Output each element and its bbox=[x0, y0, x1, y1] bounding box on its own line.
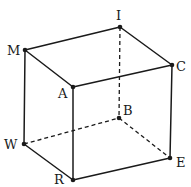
hidden-edge-IB bbox=[119, 27, 120, 118]
vertex-dot-A bbox=[71, 85, 76, 90]
edge-AM bbox=[25, 50, 73, 87]
edge-RE bbox=[73, 158, 170, 180]
edge-IC bbox=[120, 27, 172, 65]
vertex-dot-I bbox=[118, 25, 123, 30]
vertex-label-B: B bbox=[123, 103, 133, 118]
vertex-label-R: R bbox=[54, 172, 65, 187]
vertex-label-A: A bbox=[57, 86, 68, 101]
vertex-label-W: W bbox=[4, 137, 18, 152]
vertex-dot-M bbox=[23, 48, 28, 53]
vertex-label-C: C bbox=[176, 59, 186, 74]
vertex-dot-C bbox=[170, 63, 175, 68]
cube-drawing: IMCABWER bbox=[0, 0, 191, 187]
edge-CE bbox=[170, 65, 172, 158]
edge-MW bbox=[24, 50, 25, 144]
edge-CA bbox=[73, 65, 172, 87]
vertex-label-I: I bbox=[116, 8, 121, 23]
vertex-label-E: E bbox=[176, 155, 186, 170]
cube-diagram: IMCABWER bbox=[0, 0, 191, 187]
vertex-dot-E bbox=[168, 156, 173, 161]
hidden-edge-WB bbox=[24, 118, 119, 144]
edge-MI bbox=[25, 27, 120, 50]
vertex-label-M: M bbox=[7, 43, 20, 58]
vertex-dot-W bbox=[22, 142, 27, 147]
edge-WR bbox=[24, 144, 73, 180]
vertex-dot-B bbox=[117, 116, 122, 121]
hidden-edge-BE bbox=[119, 118, 170, 158]
cube-edges bbox=[24, 27, 172, 180]
vertex-dot-R bbox=[71, 178, 76, 183]
